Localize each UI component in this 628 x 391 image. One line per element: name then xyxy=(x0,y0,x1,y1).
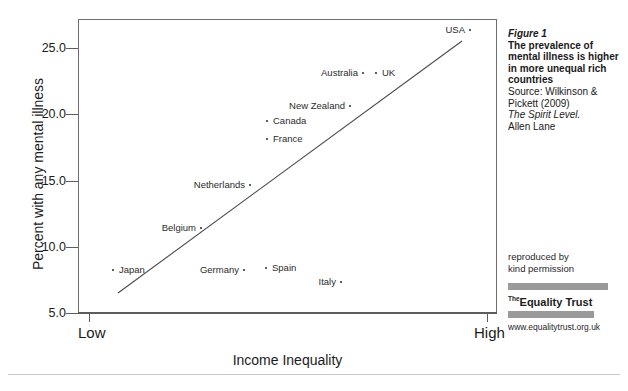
footer-divider xyxy=(8,374,620,375)
logo-the-text: The xyxy=(508,295,520,302)
logo-url[interactable]: www.equalitytrust.org.uk xyxy=(508,322,628,332)
x-axis-title: Income Inequality xyxy=(78,352,497,368)
data-point-label: France xyxy=(273,134,303,144)
x-axis-line xyxy=(78,312,497,314)
logo-bar-bottom xyxy=(508,311,594,318)
data-point-label: Belgium xyxy=(0,223,196,233)
permission-line-1: reproduced by xyxy=(508,251,624,263)
caption-figure-number: Figure 1 xyxy=(508,28,624,40)
caption-publisher: Allen Lane xyxy=(508,121,624,133)
y-tick-20 xyxy=(66,114,78,115)
data-point-label: Germany xyxy=(0,265,239,275)
y-tick-5 xyxy=(66,313,78,314)
data-point-label: Italy xyxy=(0,277,336,287)
logo-name-text: Equality Trust xyxy=(520,296,593,308)
y-tick-label-5: 5.0 xyxy=(4,307,66,319)
caption-book-title: The Spirit Level. xyxy=(508,109,624,121)
x-tick-high xyxy=(487,313,488,322)
logo-bar-top xyxy=(508,283,608,290)
x-tick-label-high: High xyxy=(474,324,505,341)
logo-wordmark: TheEquality Trust xyxy=(508,292,608,309)
permission-note: reproduced by kind permission xyxy=(508,251,624,274)
figure-caption: Figure 1 The prevalence of mental illnes… xyxy=(508,28,624,132)
data-point-label: Canada xyxy=(273,116,306,126)
permission-line-2: kind permission xyxy=(508,263,624,275)
data-point-label: Spain xyxy=(272,263,296,273)
caption-source: Source: Wilkinson & Pickett (2009) xyxy=(508,86,624,109)
caption-headline: The prevalence of mental illness is high… xyxy=(508,40,624,86)
y-tick-10 xyxy=(66,247,78,248)
data-point-label: Netherlands xyxy=(0,180,245,190)
data-point-label: UK xyxy=(382,68,395,78)
y-tick-25 xyxy=(66,48,78,49)
x-tick-low xyxy=(89,313,90,322)
figure-container: 25.0 20.0 15.0 10.0 5.0 Percent with any… xyxy=(0,0,628,391)
data-point-label: New Zealand xyxy=(0,101,345,111)
x-tick-label-low: Low xyxy=(78,324,106,341)
data-point-label: Australia xyxy=(0,68,358,78)
data-point-label: USA xyxy=(0,25,465,35)
equality-trust-logo[interactable]: TheEquality Trust xyxy=(508,283,608,318)
